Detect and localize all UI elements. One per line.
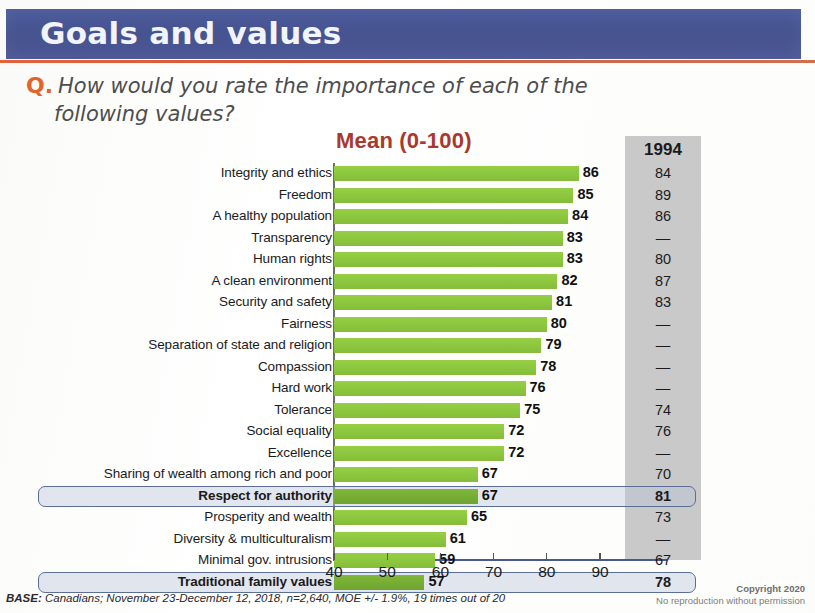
value-1994: 83 [625,294,701,310]
bar [334,424,504,439]
category-label: Compassion [258,359,332,374]
copyright-note: Copyright 2020 No reproduction without p… [656,583,805,607]
bar-value-label: 67 [482,465,498,481]
chart-row: A healthy population8486 [0,206,815,228]
value-1994: 84 [625,165,701,181]
value-1994: — [625,359,701,375]
chart-row: Integrity and ethics8684 [0,163,815,185]
bar-value-label: 83 [567,229,583,245]
chart-row: Tolerance7574 [0,400,815,422]
bar [334,231,563,246]
chart-plot-area: Integrity and ethics8684Freedom8589A hea… [0,163,815,593]
bar [334,338,541,353]
chart-row: Social equality7276 [0,421,815,443]
bar-value-label: 76 [530,379,546,395]
category-label: Sharing of wealth among rich and poor [104,466,332,481]
value-1994: — [625,531,701,547]
slide-page: Goals and values Q.How would you rate th… [0,0,815,613]
category-label: Minimal gov. intrusions [198,552,332,567]
value-1994: — [625,230,701,246]
chart-row: Sharing of wealth among rich and poor677… [0,464,815,486]
value-1994: 73 [625,509,701,525]
x-axis-tick-label: 90 [591,563,608,581]
base-note: BASE: Canadians; November 23-December 12… [6,592,505,604]
x-axis-tick-label: 60 [432,563,449,581]
category-label: Freedom [279,187,332,202]
x-axis-tick-label: 40 [325,563,342,581]
base-label: BASE: [6,592,42,604]
bar-chart: Mean (0-100) 1994 Integrity and ethics86… [0,0,815,613]
value-1994: 80 [625,251,701,267]
value-1994: 81 [625,488,701,504]
chart-row: Prosperity and wealth6573 [0,507,815,529]
bar [334,317,547,332]
category-label: Transparency [251,230,332,245]
chart-row: Respect for authority6781 [0,486,815,508]
bar [334,467,478,482]
bar [334,209,568,224]
value-1994: — [625,316,701,332]
bar [334,166,579,181]
value-1994: 76 [625,423,701,439]
category-label: Respect for authority [198,488,332,503]
value-1994: — [625,380,701,396]
bar [334,532,446,547]
value-1994: 89 [625,187,701,203]
value-1994: 86 [625,208,701,224]
category-label: Integrity and ethics [221,165,332,180]
x-axis-tick [599,553,600,560]
chart-row: Diversity & multiculturalism61— [0,529,815,551]
value-1994: — [625,337,701,353]
chart-row: Minimal gov. intrusions5967 [0,550,815,572]
bar [334,510,467,525]
x-axis-tick [333,553,334,560]
chart-row: Freedom8589 [0,185,815,207]
base-text: Canadians; November 23-December 12, 2018… [45,592,505,604]
x-axis-tick-label: 70 [485,563,502,581]
bar-value-label: 61 [450,530,466,546]
chart-row: Transparency83— [0,228,815,250]
value-1994: 74 [625,402,701,418]
x-axis-tick [546,553,547,560]
x-axis-tick-label: 50 [379,563,396,581]
bar-value-label: 85 [577,186,593,202]
category-label: Hard work [271,380,332,395]
bar [334,274,557,289]
category-label: Fairness [281,316,332,331]
bar [334,446,504,461]
copyright-line-1: Copyright 2020 [656,583,805,595]
category-label: Prosperity and wealth [204,509,332,524]
bar [334,252,563,267]
x-axis-tick [440,553,441,560]
value-1994: 67 [625,552,701,568]
value-1994: — [625,445,701,461]
bar-value-label: 83 [567,250,583,266]
chart-row: Human rights8380 [0,249,815,271]
value-1994: 70 [625,466,701,482]
value-1994: 87 [625,273,701,289]
chart-row: Compassion78— [0,357,815,379]
chart-title: Mean (0-100) [336,128,472,154]
chart-row: Separation of state and religion79— [0,335,815,357]
chart-row: Hard work76— [0,378,815,400]
bar-value-label: 67 [482,487,498,503]
bar-value-label: 72 [508,422,524,438]
column-1994-header: 1994 [625,138,701,162]
chart-row: A clean environment8287 [0,271,815,293]
category-label: Diversity & multiculturalism [174,531,332,546]
bar [334,381,526,396]
bar [334,188,573,203]
bar-value-label: 80 [551,315,567,331]
copyright-line-2: No reproduction without permission [656,595,805,607]
x-axis-tick-label: 80 [538,563,555,581]
bar-value-label: 84 [572,207,588,223]
chart-row: Security and safety8183 [0,292,815,314]
category-label: A clean environment [212,273,332,288]
bar-value-label: 78 [540,358,556,374]
bar-value-label: 65 [471,508,487,524]
bar-value-label: 79 [545,336,561,352]
bar-value-label: 82 [561,272,577,288]
category-label: Social equality [246,423,332,438]
category-label: A healthy population [212,208,332,223]
bar [334,295,552,310]
